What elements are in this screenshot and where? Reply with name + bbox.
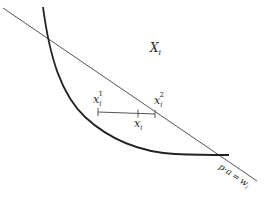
label-x-i-2: xi2 (154, 91, 164, 109)
label-x-i-1: xi1 (93, 90, 103, 108)
convex-combination-segment (98, 112, 155, 114)
diagram-svg: Xi xi1 xi2 xi p·a=wi (0, 0, 270, 199)
diagram-canvas: Xi xi1 xi2 xi p·a=wi (0, 0, 270, 199)
region-label: Xi (149, 41, 162, 57)
consumption-set-boundary-curve (43, 7, 229, 155)
label-x-i: xi (134, 117, 142, 132)
